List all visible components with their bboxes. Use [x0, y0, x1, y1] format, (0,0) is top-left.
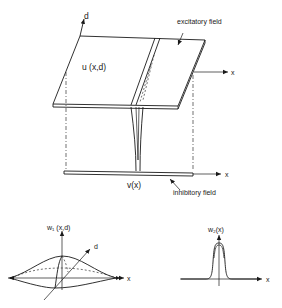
d-axis-top	[80, 19, 84, 36]
kernel-w2-label: w₂(x)	[207, 226, 224, 234]
kernel-w1-plot	[8, 231, 124, 300]
kernel-w2-x-label: x	[266, 276, 270, 283]
field-label-v: v(x)	[127, 180, 141, 190]
kernel-w1-d-label: d	[94, 243, 98, 250]
inhibitory-field-bar	[64, 171, 193, 176]
neural-field-diagram: d u (x,d) excitatory field x x v(x) inhi…	[0, 0, 282, 308]
inhibitory-field-label: inhibitory field	[173, 189, 216, 197]
x-axis-label-bottom: x	[225, 171, 229, 178]
excitatory-field-label: excitatory field	[177, 18, 222, 26]
excitatory-to-inhibitory-connection	[131, 107, 143, 171]
kernel-w1-label: w₁ (x,d)	[46, 224, 70, 232]
kernel-w1-x-label: x	[127, 275, 131, 282]
excitatory-field-plate	[53, 36, 205, 109]
field-label-u: u (x,d)	[82, 62, 106, 72]
d-axis-label-top: d	[84, 11, 89, 21]
x-axis-label-top: x	[231, 69, 235, 76]
kernel-w2-plot	[180, 235, 262, 286]
